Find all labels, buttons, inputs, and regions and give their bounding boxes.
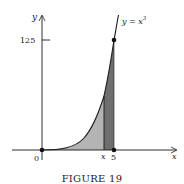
x-axis-label: x: [172, 152, 177, 161]
y-axis-label: y: [31, 12, 38, 22]
point-5-125: [112, 38, 117, 43]
shaded-area-light: [42, 96, 104, 150]
x-var-label: x: [101, 152, 106, 161]
curve-label: y = x3: [121, 15, 147, 26]
x-tick-label-5: 5: [111, 153, 116, 162]
figure-canvas: y 125 y = x3 0 x 5 x FIGURE 19: [0, 0, 184, 184]
origin-point: [40, 148, 45, 153]
shaded-area-dark: [104, 40, 114, 150]
origin-label: 0: [34, 154, 39, 163]
y-tick-label-125: 125: [20, 36, 35, 45]
point-5-0: [112, 148, 117, 153]
figure-caption: FIGURE 19: [62, 173, 123, 184]
